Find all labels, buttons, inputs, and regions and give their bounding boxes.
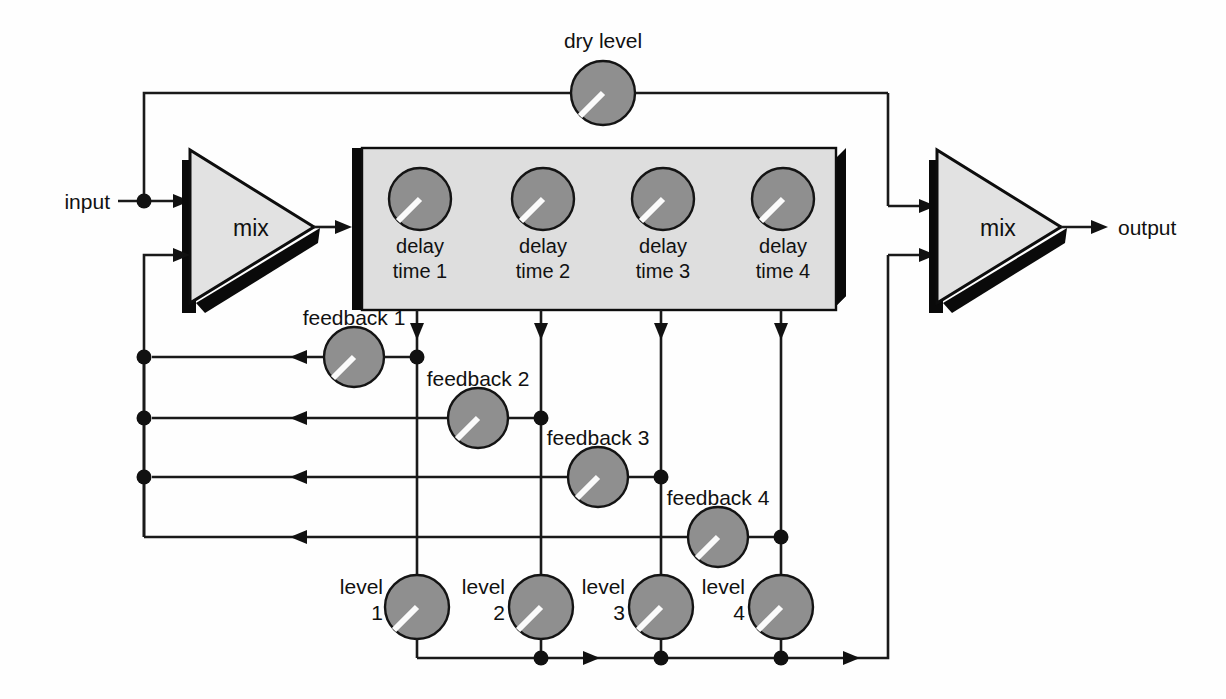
delay-knob-1[interactable] [389, 168, 451, 230]
wet-bus-dot-2 [534, 651, 549, 666]
level-1-label-line1: level [340, 575, 383, 598]
level-2-label-line2: 2 [493, 601, 505, 624]
input-junction-dot [137, 194, 152, 209]
level-4-label-line1: level [702, 575, 745, 598]
knob-feedback-3[interactable] [568, 447, 628, 507]
feedback-bus-dot-2 [137, 411, 152, 426]
knob-level-2[interactable] [509, 575, 573, 639]
delay-time-2-label-line1: delay [519, 235, 567, 257]
feedback-tap-dot-3 [654, 470, 669, 485]
wet-bus-dot-4 [774, 651, 789, 666]
input-path [118, 194, 190, 209]
feedback-tap-dot-2 [534, 411, 549, 426]
dry-into-output-mix [888, 199, 936, 213]
knob-level-1[interactable] [385, 575, 449, 639]
delay-time-1-label-line1: delay [396, 235, 444, 257]
diagram-canvas: dry level input mix delay time 1 [0, 0, 1226, 699]
delay-knob-4[interactable] [752, 168, 814, 230]
feedback-tap-dot-1 [410, 350, 425, 365]
delay-time-4-label-line2: time 4 [756, 260, 810, 282]
delay-knob-3[interactable] [632, 168, 694, 230]
delay-time-3-label-line1: delay [639, 235, 687, 257]
delay-time-4-label-line1: delay [759, 235, 807, 257]
level-1-label-line2: 1 [371, 601, 383, 624]
mix-output-stage[interactable]: mix [929, 150, 1067, 313]
level-3-label-line2: 3 [613, 601, 625, 624]
wet-bus-dot-3 [654, 651, 669, 666]
feedback-2-label: feedback 2 [427, 367, 530, 390]
feedback-4-label: feedback 4 [667, 486, 770, 509]
delay-time-1-label-line2: time 1 [393, 260, 447, 282]
knob-feedback-2[interactable] [448, 388, 508, 448]
mix-input-label: mix [233, 215, 269, 241]
feedback-3-label: feedback 3 [547, 426, 650, 449]
knob-feedback-4[interactable] [688, 507, 748, 567]
signal-flow-diagram: dry level input mix delay time 1 [0, 0, 1226, 699]
knob-level-3[interactable] [629, 575, 693, 639]
level-3-label-line1: level [582, 575, 625, 598]
mix-output-label: mix [980, 215, 1016, 241]
knob-dry-level[interactable] [571, 61, 635, 125]
dry-level-label: dry level [564, 29, 642, 52]
level-4-label-line2: 4 [733, 601, 745, 624]
delay-time-2-label-line2: time 2 [516, 260, 570, 282]
knob-feedback-1[interactable] [324, 327, 384, 387]
feedback-1-label: feedback 1 [303, 306, 406, 329]
knob-level-4[interactable] [749, 575, 813, 639]
delay-knob-2[interactable] [512, 168, 574, 230]
level-2-label-line1: level [462, 575, 505, 598]
delay-time-3-label-line2: time 3 [636, 260, 690, 282]
wet-into-output-mix [888, 248, 936, 262]
feedback-tap-dot-4 [774, 530, 789, 545]
feedback-bus-dot-3 [137, 470, 152, 485]
input-label: input [64, 190, 110, 213]
output-label: output [1118, 216, 1177, 239]
output-path [1061, 220, 1108, 234]
mix-input-stage[interactable]: mix [182, 150, 320, 313]
mix-to-delay-wire [314, 220, 352, 234]
feedback-bus-dot-1 [137, 350, 152, 365]
delay-tap-column-3 [654, 310, 668, 580]
level-output-stems [417, 639, 781, 658]
